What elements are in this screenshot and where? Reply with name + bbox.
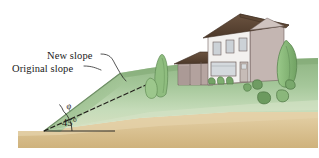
foundation-shrub-1 <box>208 78 215 84</box>
foundation-shrubs <box>208 77 233 84</box>
label-original-slope: Original slope <box>12 63 73 74</box>
upper-window-1 <box>213 42 221 55</box>
lawn-bush-3 <box>258 92 271 104</box>
upper-window-2 <box>226 40 234 53</box>
garage-door-1 <box>179 66 189 85</box>
picture-window <box>211 62 236 76</box>
garage-door-2 <box>191 65 200 85</box>
lawn-bush-2 <box>286 80 296 89</box>
front-door-window <box>242 64 247 69</box>
upper-window-3 <box>239 38 247 51</box>
label-new-slope: New slope <box>47 50 93 61</box>
slope-diagram-figure: New slope Original slope φ 45° <box>0 0 319 158</box>
foundation-shrub-2 <box>217 77 224 84</box>
lawn-bush-1 <box>253 80 263 89</box>
foundation-shrub-3 <box>226 77 233 84</box>
illustration-canvas <box>0 0 319 158</box>
lawn-bush-4 <box>277 90 289 102</box>
lawn-bush-5 <box>244 84 252 91</box>
label-angle-45: 45° <box>62 117 77 128</box>
